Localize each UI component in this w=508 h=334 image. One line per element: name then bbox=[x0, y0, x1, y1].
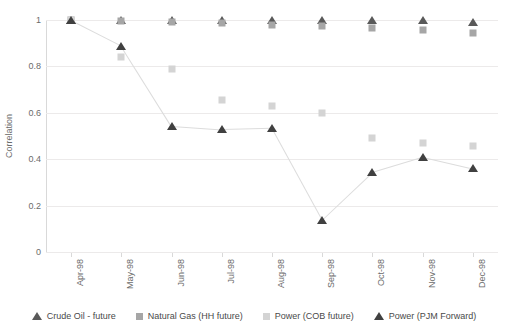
y-axis-title: Correlation bbox=[4, 114, 14, 158]
x-tick-label-oct-98: Oct-98 bbox=[376, 259, 386, 286]
data-point bbox=[468, 164, 478, 172]
x-tick-label-sep-98: Sep-98 bbox=[326, 259, 336, 288]
data-point bbox=[369, 25, 376, 32]
data-point bbox=[167, 122, 177, 130]
data-point bbox=[317, 216, 327, 224]
x-tick-mark bbox=[322, 253, 323, 257]
x-tick-label-jun-98: Jun-98 bbox=[176, 259, 186, 287]
legend-triangle-icon bbox=[374, 312, 384, 320]
data-point bbox=[419, 27, 426, 34]
data-point bbox=[118, 18, 125, 25]
x-tick-label-dec-98: Dec-98 bbox=[477, 259, 487, 288]
series-connector-line bbox=[322, 172, 373, 220]
y-tick-label: 0.2 bbox=[28, 201, 41, 211]
data-point bbox=[217, 125, 227, 133]
data-point bbox=[168, 19, 175, 26]
legend-label: Power (PJM Forward) bbox=[389, 311, 477, 321]
series-connector-line bbox=[172, 126, 222, 130]
legend-item[interactable]: Natural Gas (HH future) bbox=[136, 311, 243, 321]
x-tick-mark bbox=[222, 253, 223, 257]
data-point bbox=[218, 97, 225, 104]
data-point bbox=[269, 21, 276, 28]
legend-label: Natural Gas (HH future) bbox=[148, 311, 243, 321]
x-tick-mark bbox=[71, 253, 72, 257]
legend-label: Power (COB future) bbox=[275, 311, 354, 321]
x-tick-mark bbox=[473, 253, 474, 257]
data-point bbox=[116, 42, 126, 50]
plot-area: 00.20.40.60.81 bbox=[46, 20, 498, 252]
data-point bbox=[66, 16, 76, 24]
x-tick-mark bbox=[423, 253, 424, 257]
data-point bbox=[269, 102, 276, 109]
data-point bbox=[468, 18, 478, 26]
x-tick-label-apr-98: Apr-98 bbox=[75, 259, 85, 286]
data-point bbox=[218, 20, 225, 27]
x-tick-label-may-98: May-98 bbox=[125, 259, 135, 289]
gridline-y-0.8 bbox=[46, 66, 498, 67]
data-point bbox=[469, 29, 476, 36]
data-point bbox=[418, 16, 428, 24]
y-tick-label: 0.8 bbox=[28, 61, 41, 71]
chart-legend: Crude Oil - futureNatural Gas (HH future… bbox=[0, 306, 508, 326]
legend-square-icon bbox=[263, 313, 270, 320]
legend-item[interactable]: Crude Oil - future bbox=[32, 311, 116, 321]
y-tick-label: 0.4 bbox=[28, 154, 41, 164]
gridline-y-0.6 bbox=[46, 113, 498, 114]
data-point bbox=[319, 22, 326, 29]
x-tick-mark bbox=[372, 253, 373, 257]
x-tick-label-aug-98: Aug-98 bbox=[276, 259, 286, 288]
x-tick-label-nov-98: Nov-98 bbox=[427, 259, 437, 288]
data-point bbox=[419, 139, 426, 146]
legend-item[interactable]: Power (COB future) bbox=[263, 311, 354, 321]
y-tick-label: 0.6 bbox=[28, 108, 41, 118]
legend-label: Crude Oil - future bbox=[47, 311, 116, 321]
data-point bbox=[118, 54, 125, 61]
series-connector-line bbox=[222, 128, 272, 130]
x-tick-mark bbox=[121, 253, 122, 257]
data-point bbox=[168, 65, 175, 72]
data-point bbox=[367, 16, 377, 24]
y-tick-label: 0 bbox=[36, 247, 41, 257]
legend-item[interactable]: Power (PJM Forward) bbox=[374, 311, 477, 321]
x-tick-mark bbox=[172, 253, 173, 257]
data-point bbox=[319, 109, 326, 116]
series-connector-line bbox=[71, 20, 122, 46]
gridline-y-0.2 bbox=[46, 206, 498, 207]
data-point bbox=[369, 135, 376, 142]
correlation-chart: Correlation 00.20.40.60.81 Apr-98May-98J… bbox=[0, 0, 508, 334]
series-connector-line bbox=[121, 46, 172, 127]
x-tick-label-jul-98: Jul-98 bbox=[226, 259, 236, 284]
data-point bbox=[469, 143, 476, 150]
legend-square-icon bbox=[136, 313, 143, 320]
legend-triangle-icon bbox=[32, 312, 42, 320]
data-point bbox=[267, 124, 277, 132]
y-tick-label: 1 bbox=[36, 15, 41, 25]
data-point bbox=[367, 168, 377, 176]
x-tick-mark bbox=[272, 253, 273, 257]
data-point bbox=[418, 153, 428, 161]
